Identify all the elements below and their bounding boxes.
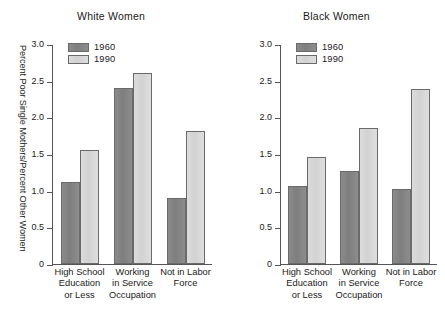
x-category-line: in Service [106,278,159,289]
bar-group [288,45,326,264]
bar-1990 [307,157,326,264]
x-axis-line [52,264,212,265]
x-category-label: Not in LaborForce [385,267,437,301]
x-category-line: High School [53,267,106,278]
bar-group [340,45,378,264]
x-category-line: Education [53,278,106,289]
x-axis-line [280,264,437,265]
y-tick-label: 2.0 [259,112,272,122]
bar-1990 [186,131,205,264]
bar-1960 [392,189,411,264]
y-tick: 0 [275,265,280,266]
chart-panel-white-women: White Women Percent Poor Single Mothers/… [0,0,222,330]
panel-title: White Women [0,10,222,22]
legend-label-1990: 1990 [322,54,343,64]
y-tick-label: 2.5 [31,76,44,86]
legend-item-1960: 1960 [296,42,343,52]
y-tick-label: 0 [39,259,44,269]
plot-area: 00.51.01.52.02.53.0 High SchoolEducation… [280,45,437,265]
x-category-line: in Service [333,278,385,289]
y-tick: 0 [47,265,52,266]
legend-swatch-1990-icon [68,55,89,64]
x-category-line: Force [385,278,437,289]
x-category-line: Not in Labor [385,267,437,278]
x-category-line: or Less [53,290,106,301]
y-tick-label: 0 [267,259,272,269]
bar-1990 [359,128,378,264]
x-category-line: Force [159,278,212,289]
x-category-line: Working [106,267,159,278]
y-tick: 0.5 [275,228,280,229]
y-tick: 3.0 [47,45,52,46]
y-tick: 3.0 [275,45,280,46]
legend: 1960 1990 [296,42,343,64]
legend-item-1990: 1990 [296,54,343,64]
bar-1960 [61,182,80,264]
bar-1960 [167,198,186,264]
y-tick-label: 0.5 [31,222,44,232]
y-tick-label: 1.5 [259,149,272,159]
y-tick-label: 2.5 [259,76,272,86]
bar-group [167,45,205,264]
bar-group [392,45,430,264]
x-category-label: Workingin ServiceOccupation [333,267,385,301]
x-category-line: Education [281,278,333,289]
bar-1960 [288,186,307,264]
y-tick-label: 3.0 [31,39,44,49]
x-category-line: Occupation [106,290,159,301]
x-category-label: Not in LaborForce [159,267,212,301]
x-category-label: High SchoolEducationor Less [53,267,106,301]
chart-figure: White Women Percent Poor Single Mothers/… [0,0,445,330]
y-axis-label: Percent Poor Single Mothers/Percent Othe… [14,45,28,265]
bar-group [114,45,152,264]
legend: 1960 1990 [68,42,115,64]
bar-group [61,45,99,264]
y-tick-label: 2.0 [31,112,44,122]
y-tick-label: 0.5 [259,222,272,232]
x-category-label: High SchoolEducationor Less [281,267,333,301]
x-category-label: Workingin ServiceOccupation [106,267,159,301]
bar-1990 [80,150,99,264]
y-tick: 2.5 [47,82,52,83]
x-axis-categories: High SchoolEducationor LessWorkingin Ser… [281,267,437,301]
panel-title: Black Women [222,10,445,22]
y-tick: 1.5 [47,155,52,156]
x-category-line: Not in Labor [159,267,212,278]
y-tick: 1.5 [275,155,280,156]
bar-1990 [411,89,430,264]
y-tick-label: 1.5 [31,149,44,159]
y-tick: 1.0 [275,192,280,193]
legend-label-1990: 1990 [94,54,115,64]
bar-groups [281,45,437,264]
y-tick: 0.5 [47,228,52,229]
x-category-line: Working [333,267,385,278]
y-tick: 2.0 [47,118,52,119]
y-tick: 2.0 [275,118,280,119]
legend-item-1990: 1990 [68,54,115,64]
bar-1960 [340,171,359,264]
bar-groups [53,45,212,264]
legend-label-1960: 1960 [322,42,343,52]
x-category-line: or Less [281,290,333,301]
bar-1960 [114,88,133,264]
y-tick-label: 3.0 [259,39,272,49]
x-category-line: High School [281,267,333,278]
y-tick-label: 1.0 [31,186,44,196]
legend-swatch-1960-icon [68,43,89,52]
x-category-line: Occupation [333,290,385,301]
y-tick-label: 1.0 [259,186,272,196]
legend-item-1960: 1960 [68,42,115,52]
legend-swatch-1960-icon [296,43,317,52]
bar-1990 [133,73,152,264]
legend-label-1960: 1960 [94,42,115,52]
x-axis-categories: High SchoolEducationor LessWorkingin Ser… [53,267,212,301]
chart-panel-black-women: Black Women Percent Poor Single Mothers/… [222,0,445,330]
legend-swatch-1990-icon [296,55,317,64]
y-tick: 2.5 [275,82,280,83]
y-tick: 1.0 [47,192,52,193]
plot-area: 00.51.01.52.02.53.0 High SchoolEducation… [52,45,212,265]
